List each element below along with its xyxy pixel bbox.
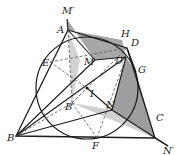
label-N: N — [105, 99, 116, 110]
label-F: F — [91, 140, 100, 151]
label-D: D — [130, 37, 139, 48]
label-Np: N′ — [162, 145, 175, 155]
label-E: E — [41, 57, 50, 68]
label-H: H — [120, 28, 130, 39]
center-point-I — [86, 87, 89, 90]
label-I: I — [89, 88, 95, 99]
label-M: M — [83, 56, 95, 67]
label-G: G — [138, 64, 146, 75]
label-C: C — [156, 112, 164, 123]
label-B: B — [6, 132, 14, 143]
geometry-diagram: M′ A H D D′ G E M I B′ N B F C N′ — [0, 0, 184, 155]
label-Dp: D′ — [114, 55, 126, 66]
label-Mp: M′ — [61, 5, 75, 16]
label-Bp: B′ — [64, 101, 75, 112]
label-A: A — [56, 24, 64, 35]
